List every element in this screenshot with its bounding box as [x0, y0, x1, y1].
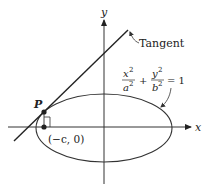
y-axis-label: y — [100, 6, 108, 19]
eq-equals-one: = 1 — [167, 75, 185, 86]
eq-b-exp: 2 — [158, 80, 162, 88]
eq-y: y — [151, 68, 158, 79]
tangent-line — [14, 30, 128, 141]
tangent-label: Tangent — [139, 37, 185, 50]
tangent-leader-arrow — [130, 32, 139, 43]
ellipse-tangent-diagram: y x Tangent P (−c, 0) x 2 a 2 + y 2 b 2 … — [0, 0, 205, 192]
x-axis-label: x — [195, 121, 202, 134]
equation-leader-arrow — [161, 88, 171, 107]
eq-x-exp: 2 — [129, 66, 133, 74]
eq-y-exp: 2 — [158, 66, 162, 74]
focus-point — [41, 124, 46, 129]
ellipse-equation: x 2 a 2 + y 2 b 2 = 1 — [122, 66, 185, 93]
eq-plus: + — [139, 75, 147, 86]
eq-a-exp: 2 — [129, 80, 133, 88]
focus-label: (−c, 0) — [48, 133, 84, 145]
point-p-label: P — [33, 98, 43, 111]
